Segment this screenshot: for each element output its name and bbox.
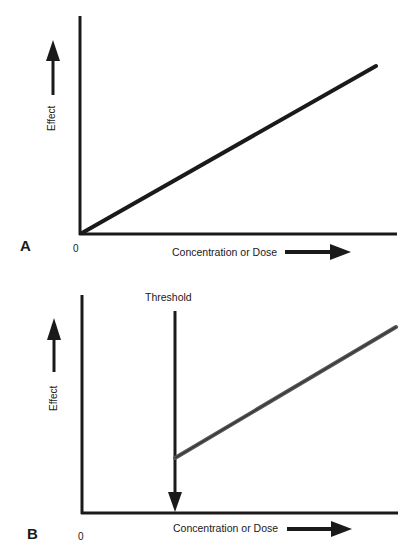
panel-a-response-line (82, 66, 376, 233)
panel-b-y-label: Effect (48, 386, 59, 411)
threshold-arrow-icon (168, 311, 182, 512)
diagram-canvas (0, 0, 417, 559)
panel-b (47, 295, 398, 537)
up-arrow-icon (47, 318, 61, 372)
up-arrow-icon (46, 40, 60, 95)
right-arrow-icon (285, 244, 351, 260)
right-arrow-icon (287, 521, 352, 537)
panel-b-letter: B (27, 525, 38, 542)
panel-b-x-label: Concentration or Dose (173, 522, 278, 534)
panel-a-x-label: Concentration or Dose (172, 246, 277, 258)
panel-a-letter: A (20, 237, 31, 254)
panel-b-origin-label: 0 (78, 531, 84, 542)
panel-a-origin-label: 0 (73, 243, 79, 254)
threshold-label: Threshold (145, 291, 192, 303)
panel-a (46, 16, 397, 260)
panel-a-y-label: Effect (46, 106, 57, 131)
